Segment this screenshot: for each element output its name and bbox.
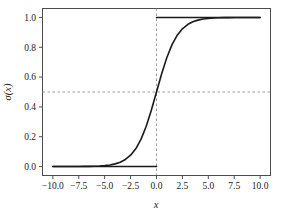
x-tick-label: 10.0 — [252, 181, 269, 191]
x-tick-label: 0.0 — [151, 181, 163, 191]
x-tick-label: 5.0 — [202, 181, 214, 191]
x-tick-label: −7.5 — [70, 181, 87, 191]
x-tick-label: −5.0 — [96, 181, 113, 191]
y-axis-title: σ(x) — [2, 83, 14, 100]
x-tick-label: −10.0 — [42, 181, 64, 191]
y-tick-label: 0.6 — [24, 72, 36, 82]
x-tick-label: 7.5 — [228, 181, 240, 191]
y-tick-label: 0.4 — [24, 102, 36, 112]
x-tick-label: −2.5 — [122, 181, 139, 191]
y-tick-label: 1.0 — [24, 13, 36, 23]
x-tick-label: 2.5 — [176, 181, 188, 191]
y-tick-label: 0.0 — [24, 162, 36, 172]
x-axis-tick-labels: −10.0−7.5−5.0−2.50.02.55.07.510.0 — [42, 181, 269, 191]
sigmoid-function-figure: −10.0−7.5−5.0−2.50.02.55.07.510.0 0.00.2… — [0, 0, 285, 219]
plot-canvas: −10.0−7.5−5.0−2.50.02.55.07.510.0 0.00.2… — [0, 0, 285, 219]
y-tick-label: 0.8 — [24, 43, 36, 53]
x-axis-title: x — [153, 199, 159, 210]
y-tick-label: 0.2 — [24, 132, 36, 142]
